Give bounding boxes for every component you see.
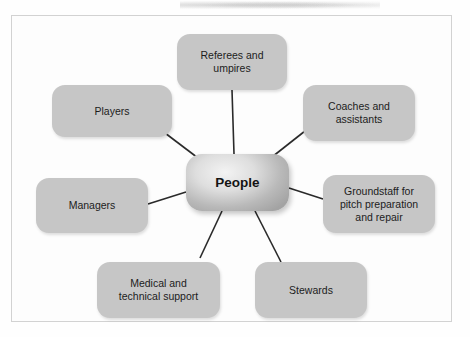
node-managers[interactable]: Managers bbox=[36, 178, 148, 233]
node-label-managers: Managers bbox=[69, 199, 116, 212]
center-node-people[interactable]: People bbox=[186, 154, 289, 211]
connector-coaches-and-assistants bbox=[272, 131, 305, 157]
node-label-stewards: Stewards bbox=[289, 284, 333, 297]
node-players[interactable]: Players bbox=[52, 85, 172, 137]
center-node-label: People bbox=[215, 175, 259, 190]
node-label-players: Players bbox=[94, 105, 129, 118]
node-referees-and-umpires[interactable]: Referees and umpires bbox=[177, 34, 287, 90]
node-label-medical-and-technical-support: Medical and technical support bbox=[119, 277, 198, 303]
node-medical-and-technical-support[interactable]: Medical and technical support bbox=[97, 262, 220, 318]
connector-stewards bbox=[255, 211, 281, 262]
connector-players bbox=[165, 133, 198, 158]
node-label-coaches-and-assistants: Coaches and assistants bbox=[328, 100, 390, 126]
node-label-referees-and-umpires: Referees and umpires bbox=[200, 49, 263, 75]
node-coaches-and-assistants[interactable]: Coaches and assistants bbox=[303, 85, 415, 141]
connector-groundstaff-for-pitch-preparation-and-repair bbox=[289, 188, 323, 199]
connector-managers bbox=[148, 192, 186, 204]
node-stewards[interactable]: Stewards bbox=[255, 262, 367, 318]
node-groundstaff-for-pitch-preparation-and-repair[interactable]: Groundstaff for pitch preparation and re… bbox=[323, 175, 435, 233]
diagram-canvas: People Referees and umpiresCoaches and a… bbox=[0, 0, 470, 337]
connector-referees-and-umpires bbox=[232, 90, 234, 154]
connector-medical-and-technical-support bbox=[200, 211, 222, 258]
node-label-groundstaff-for-pitch-preparation-and-repair: Groundstaff for pitch preparation and re… bbox=[340, 185, 418, 224]
diagram-page: People Referees and umpiresCoaches and a… bbox=[0, 0, 470, 337]
